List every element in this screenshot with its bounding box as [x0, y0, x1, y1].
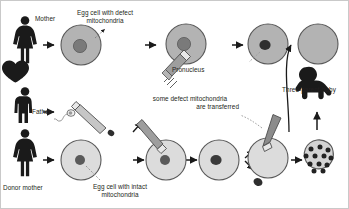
donor-mother-label: Donor mother [3, 184, 43, 192]
egg-intact-label-line2: mitochondria [74, 191, 166, 199]
enucleated-mother-egg-with-pronucleus [248, 24, 288, 64]
father-label: Father [32, 108, 51, 116]
transferred-label-line1: some defect mitochondria [141, 95, 239, 103]
mother-label: Mother [35, 15, 55, 23]
donor-egg-cell [61, 140, 101, 180]
mother-egg-cell [61, 25, 101, 65]
egg-intact-label-line1: Egg cell with intact [74, 183, 166, 191]
three-parent-baby-label: Three-parent-baby [272, 86, 346, 94]
diagram-canvas: Mother Father Donor mother Egg cell with… [0, 0, 349, 209]
donor-egg-with-pronucleus [199, 140, 239, 180]
pronucleus-label: Pronucleus [172, 66, 204, 74]
egg-defect-label-line1: Egg cell with defect [61, 9, 149, 17]
reconstructed-zygote [298, 24, 338, 64]
egg-defect-label-line2: mitochondria [61, 17, 149, 25]
transferred-label-line2: are transferred [141, 103, 239, 111]
